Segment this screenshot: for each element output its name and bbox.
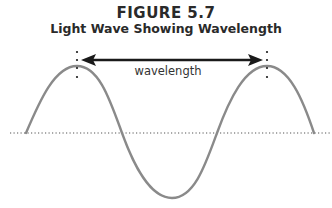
wavelength-label: wavelength: [118, 64, 218, 78]
left-peak-marker: [76, 51, 78, 78]
right-peak-marker: [266, 51, 268, 78]
light-wave-curve: [26, 66, 314, 198]
wave-diagram: [0, 0, 332, 208]
